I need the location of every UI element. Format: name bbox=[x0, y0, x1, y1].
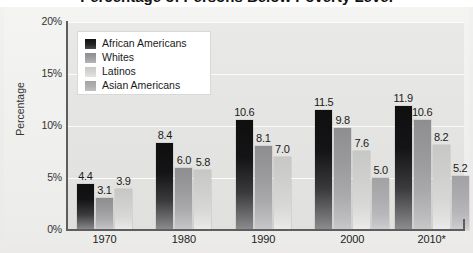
bar-value-label: 11.9 bbox=[389, 92, 418, 104]
bar-value-label: 5.2 bbox=[446, 162, 473, 174]
y-tick-label: 10% bbox=[22, 119, 62, 131]
x-tick-label: 1970 bbox=[59, 233, 150, 245]
chart-title-text: Percentage of Persons Below Poverty Leve… bbox=[0, 0, 473, 5]
chart-title-clipped: Percentage of Persons Below Poverty Leve… bbox=[0, 0, 473, 7]
legend-swatch-african-americans bbox=[85, 39, 96, 49]
legend-label: Latinos bbox=[102, 65, 136, 77]
bar-value-label: 10.6 bbox=[230, 106, 259, 118]
legend-label: Whites bbox=[102, 51, 134, 63]
bar-value-label: 8.4 bbox=[150, 129, 179, 141]
bar bbox=[255, 146, 272, 230]
y-axis-line bbox=[66, 21, 68, 231]
legend-swatch-whites bbox=[85, 53, 96, 63]
legend-label: African Americans bbox=[102, 37, 187, 49]
x-axis-end-tick bbox=[463, 219, 465, 231]
bar-value-label: 9.8 bbox=[328, 114, 357, 126]
legend-swatch-asian-americans bbox=[85, 81, 96, 91]
x-tick-label: 1980 bbox=[138, 233, 229, 245]
bar-value-label: 8.1 bbox=[249, 132, 278, 144]
bar-value-label: 4.4 bbox=[71, 170, 100, 182]
y-tick-label: 15% bbox=[22, 67, 62, 79]
bar bbox=[274, 157, 291, 230]
x-tick-label: 2010* bbox=[377, 233, 473, 245]
gridline-20 bbox=[67, 22, 464, 23]
legend-label: Asian Americans bbox=[102, 79, 180, 91]
bar-value-label: 7.6 bbox=[347, 137, 376, 149]
bar bbox=[372, 178, 389, 230]
bar bbox=[96, 198, 113, 230]
y-axis-title: Percentage bbox=[14, 69, 26, 149]
bar-value-label: 11.5 bbox=[309, 96, 338, 108]
bar-value-label: 5.8 bbox=[188, 156, 217, 168]
chart-figure: Percentage of Persons Below Poverty Leve… bbox=[0, 0, 473, 253]
bar-value-label: 7.0 bbox=[268, 143, 297, 155]
legend-swatch-latinos bbox=[85, 67, 96, 77]
bar bbox=[395, 106, 412, 230]
bar-value-label: 10.6 bbox=[408, 106, 437, 118]
y-tick-label: 5% bbox=[22, 171, 62, 183]
x-axis-line bbox=[66, 229, 465, 231]
bar bbox=[315, 110, 332, 230]
chart-panel: 0%5%10%15%20% Percentage African America… bbox=[4, 7, 469, 244]
bar-value-label: 5.0 bbox=[366, 164, 395, 176]
chart-legend: African AmericansWhitesLatinosAsian Amer… bbox=[77, 31, 211, 95]
bar bbox=[115, 189, 132, 230]
bar bbox=[353, 151, 370, 230]
bar bbox=[452, 176, 469, 230]
x-tick-label: 1990 bbox=[218, 233, 309, 245]
bar bbox=[433, 145, 450, 230]
bar bbox=[175, 168, 192, 230]
bar-value-label: 3.9 bbox=[109, 175, 138, 187]
y-tick-label: 20% bbox=[22, 15, 62, 27]
y-tick-label: 0% bbox=[22, 223, 62, 235]
bar bbox=[194, 170, 211, 230]
bar-value-label: 8.2 bbox=[427, 131, 456, 143]
